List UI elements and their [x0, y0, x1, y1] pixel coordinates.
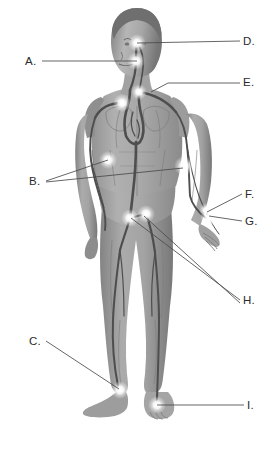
label-h: H.	[243, 295, 255, 307]
label-b: B.	[29, 176, 40, 188]
label-e: E.	[243, 77, 254, 89]
label-c: C.	[29, 336, 41, 348]
label-f: F.	[245, 189, 255, 201]
anatomy-diagram-canvas: A. B. C. D. E. F. G. H. I.	[0, 0, 274, 456]
leader-line-e	[151, 83, 240, 92]
leader-line-f	[207, 194, 242, 212]
label-a: A.	[25, 56, 36, 68]
human-body-illustration	[0, 0, 274, 456]
label-g: G.	[245, 216, 258, 228]
label-d: D.	[243, 36, 255, 48]
label-i: I.	[247, 400, 254, 412]
